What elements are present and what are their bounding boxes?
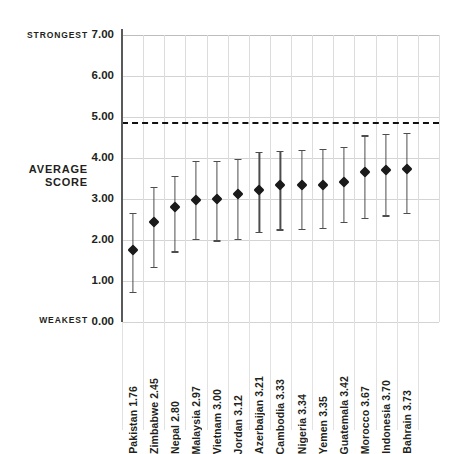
data-point: [164, 35, 185, 322]
x-axis-label-morocco: Morocco 3.67: [354, 322, 375, 454]
error-bar-cap-lower: [340, 222, 347, 223]
gridline-x: [439, 35, 440, 322]
data-point: [376, 35, 397, 322]
x-axis-label-cambodia: Cambodia 3.33: [270, 322, 291, 454]
x-axis-label-text: Morocco 3.67: [359, 384, 371, 454]
marker-diamond: [380, 165, 391, 176]
x-tick-separator: [143, 322, 144, 430]
x-axis-label-text: Vietnam 3.00: [211, 387, 223, 454]
y-axis-tick-labels: 7.006.005.004.003.002.001.000.00: [62, 0, 114, 454]
x-tick-separator: [312, 322, 313, 430]
marker-diamond: [296, 179, 307, 190]
marker-diamond: [169, 202, 180, 213]
error-bar-cap-upper: [362, 135, 369, 136]
x-tick-separator: [270, 322, 271, 430]
data-point: [228, 35, 249, 322]
x-axis-label-azerbaijan: Azerbaijan 3.21: [249, 322, 270, 454]
data-point: [185, 35, 206, 322]
error-bar-cap-lower: [319, 228, 326, 229]
x-axis-label-text: Bahrain 3.73: [401, 388, 413, 454]
y-tick-label: 5.00: [62, 110, 114, 122]
x-axis-label-text: Malaysia 2.97: [190, 384, 202, 454]
error-bar-cap-upper: [404, 133, 411, 134]
data-point: [312, 35, 333, 322]
marker-diamond: [127, 244, 138, 255]
error-bar-cap-lower: [256, 232, 263, 233]
x-axis-label-text: Azerbaijan 3.21: [253, 374, 265, 454]
error-bar-cap-lower: [362, 218, 369, 219]
x-axis-label-nepal: Nepal 2.80: [164, 322, 185, 454]
error-bar-cap-upper: [214, 161, 221, 162]
x-axis-label-text: Jordan 3.12: [232, 393, 244, 454]
y-tick-label: 7.00: [62, 28, 114, 40]
marker-diamond: [254, 185, 265, 196]
data-point: [291, 35, 312, 322]
data-point: [143, 35, 164, 322]
x-axis-label-text: Indonesia 3.70: [380, 378, 392, 454]
data-point: [207, 35, 228, 322]
marker-diamond: [275, 180, 286, 191]
error-bar-cap-lower: [192, 239, 199, 240]
x-axis-label-malaysia: Malaysia 2.97: [185, 322, 206, 454]
x-axis-label-jordan: Jordan 3.12: [228, 322, 249, 454]
x-axis-label-text: Nigeria 3.34: [296, 392, 308, 454]
chart-root: STRONGEST WEAKEST AVERAGE SCORE 7.006.00…: [0, 0, 460, 454]
data-point: [249, 35, 270, 322]
error-bar-cap-upper: [340, 147, 347, 148]
y-tick-label: 3.00: [62, 192, 114, 204]
data-point: [270, 35, 291, 322]
marker-diamond: [359, 166, 370, 177]
x-axis-label-zimbabwe: Zimbabwe 2.45: [143, 322, 164, 454]
y-tick-label: 1.00: [62, 274, 114, 286]
marker-diamond: [233, 188, 244, 199]
error-bar-cap-lower: [235, 239, 242, 240]
x-tick-separator: [397, 322, 398, 430]
y-tick-label: 6.00: [62, 69, 114, 81]
error-bar-cap-upper: [171, 176, 178, 177]
error-bar-cap-upper: [192, 161, 199, 162]
x-tick-separator: [418, 322, 419, 430]
x-axis-label-guatemala: Guatemala 3.42: [333, 322, 354, 454]
marker-diamond: [338, 176, 349, 187]
y-tick-label: 0.00: [62, 315, 114, 327]
x-axis-label-vietnam: Vietnam 3.00: [207, 322, 228, 454]
x-axis-label-text: Cambodia 3.33: [274, 377, 286, 454]
x-axis-label-nigeria: Nigeria 3.34: [291, 322, 312, 454]
marker-diamond: [402, 163, 413, 174]
x-tick-separator: [228, 322, 229, 430]
marker-diamond: [211, 193, 222, 204]
error-bar: [174, 176, 175, 251]
x-tick-separator: [333, 322, 334, 430]
error-bar-cap-lower: [404, 213, 411, 214]
error-bar-cap-upper: [319, 149, 326, 150]
x-tick-separator: [291, 322, 292, 430]
error-bar-cap-upper: [383, 134, 390, 135]
x-tick-separator: [185, 322, 186, 430]
x-tick-separator: [122, 322, 123, 430]
error-bar-cap-upper: [235, 159, 242, 160]
x-axis-label-yemen: Yemen 3.35: [312, 322, 333, 454]
error-bar-cap-upper: [150, 187, 157, 188]
data-point: [333, 35, 354, 322]
x-tick-separator: [164, 322, 165, 430]
error-bar-cap-upper: [298, 150, 305, 151]
x-axis-label-text: Pakistan 1.76: [127, 384, 139, 454]
x-axis-label-indonesia: Indonesia 3.70: [376, 322, 397, 454]
error-bar-cap-lower: [150, 267, 157, 268]
marker-diamond: [190, 195, 201, 206]
error-bar-cap-lower: [298, 229, 305, 230]
x-axis-labels: Pakistan 1.76Zimbabwe 2.45Nepal 2.80Mala…: [122, 322, 439, 454]
x-axis-label-bahrain: Bahrain 3.73: [397, 322, 418, 454]
error-bar-cap-upper: [129, 213, 136, 214]
x-tick-separator: [207, 322, 208, 430]
y-tick-label: 2.00: [62, 233, 114, 245]
gridline-x: [418, 35, 419, 322]
marker-diamond: [317, 179, 328, 190]
x-tick-separator: [249, 322, 250, 430]
error-bar-cap-lower: [171, 251, 178, 252]
error-bar-cap-lower: [214, 240, 221, 241]
data-point: [122, 35, 143, 322]
x-tick-separator: [376, 322, 377, 430]
error-bar-cap-upper: [277, 151, 284, 152]
x-axis-label-text: Nepal 2.80: [169, 399, 181, 454]
